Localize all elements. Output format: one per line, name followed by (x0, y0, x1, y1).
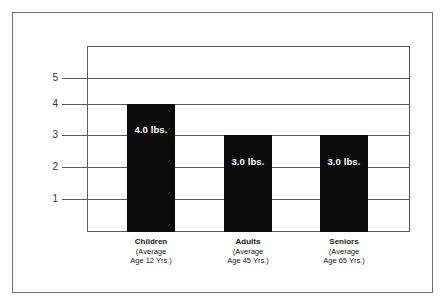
bar-chart-figure: 5 4 3 2 1 4.0 lbs. 3.0 lbs. 3.0 lbs. Chi… (0, 0, 446, 308)
ytick-label-3: 3 (44, 130, 58, 140)
category-sub-adults-2: Age 45 Yrs.) (193, 256, 303, 266)
category-name-children: Children (96, 237, 206, 247)
category-sub-seniors-2: Age 65 Yrs.) (289, 256, 399, 266)
ytick-label-2: 2 (44, 162, 58, 172)
category-label-adults: Adults (Average Age 45 Yrs.) (193, 237, 303, 266)
bar-seniors (320, 135, 368, 232)
ytick-label-4: 4 (44, 99, 58, 109)
chart-screenshot: 5 4 3 2 1 4.0 lbs. 3.0 lbs. 3.0 lbs. Chi… (0, 0, 446, 308)
ytick-label-5: 5 (44, 73, 58, 83)
ytick-label-1: 1 (44, 194, 58, 204)
bar-adults (224, 135, 272, 232)
bar-value-children: 4.0 lbs. (127, 125, 175, 135)
category-label-children: Children (Average Age 12 Yrs.) (96, 237, 206, 266)
category-label-seniors: Seniors (Average Age 65 Yrs.) (289, 237, 399, 266)
category-sub-seniors-1: (Average (289, 247, 399, 257)
bar-value-seniors: 3.0 lbs. (320, 157, 368, 167)
category-sub-adults-1: (Average (193, 247, 303, 257)
category-name-seniors: Seniors (289, 237, 399, 247)
category-sub-children-2: Age 12 Yrs.) (96, 256, 206, 266)
category-name-adults: Adults (193, 237, 303, 247)
category-sub-children-1: (Average (96, 247, 206, 257)
bar-value-adults: 3.0 lbs. (224, 157, 272, 167)
